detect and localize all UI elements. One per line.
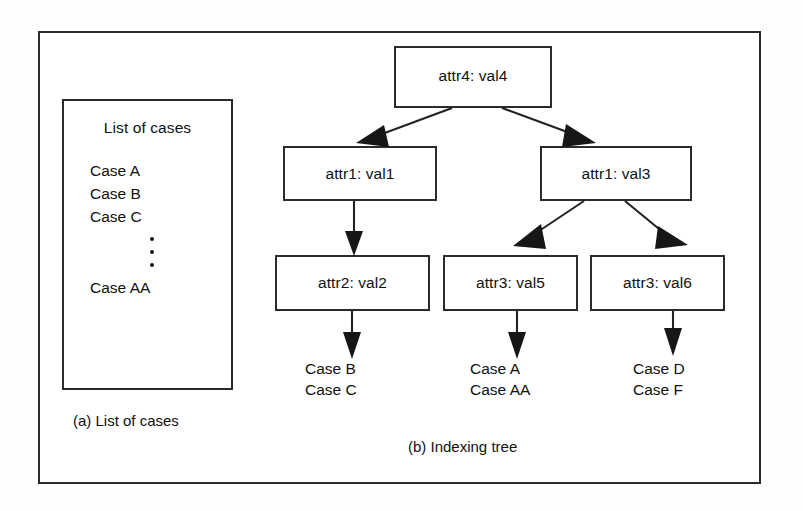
- leaf-case-line: Case F: [633, 379, 685, 400]
- ellipsis-dot: [150, 237, 154, 241]
- tree-node-right-level1: attr1: val3: [540, 146, 692, 201]
- leaf-cases-left: Case B Case C: [305, 358, 357, 400]
- list-item: Case B: [90, 182, 210, 205]
- tree-node-label: attr3: val6: [623, 274, 692, 292]
- list-of-cases-title: List of cases: [64, 119, 231, 137]
- tree-node-left-level2: attr2: val2: [275, 255, 430, 311]
- leaf-case-line: Case D: [633, 358, 685, 379]
- vertical-ellipsis-icon: [90, 237, 210, 267]
- tree-node-label: attr3: val5: [476, 274, 545, 292]
- figure-root: List of cases Case A Case B Case C Case …: [0, 0, 803, 511]
- ellipsis-dot: [150, 250, 154, 254]
- ellipsis-dot: [150, 263, 154, 267]
- list-item: Case C: [90, 205, 210, 228]
- tree-node-label: attr2: val2: [318, 274, 387, 292]
- list-item: Case A: [90, 159, 210, 182]
- caption-panel-a: (a) List of cases: [73, 412, 179, 429]
- caption-panel-b: (b) Indexing tree: [408, 438, 517, 455]
- tree-node-label: attr4: val4: [438, 67, 507, 85]
- leaf-case-line: Case B: [305, 358, 357, 379]
- leaf-case-line: Case C: [305, 379, 357, 400]
- leaf-case-line: Case A: [470, 358, 530, 379]
- tree-node-label: attr1: val3: [581, 165, 650, 183]
- tree-node-label: attr1: val1: [325, 165, 394, 183]
- tree-node-left-level1: attr1: val1: [283, 146, 437, 201]
- leaf-cases-middle: Case A Case AA: [470, 358, 530, 400]
- case-list: Case A Case B Case C Case AA: [90, 159, 210, 299]
- tree-node-middle-level2: attr3: val5: [443, 255, 578, 311]
- list-item-last: Case AA: [90, 276, 210, 299]
- list-of-cases-box: List of cases Case A Case B Case C Case …: [62, 99, 233, 390]
- tree-node-root: attr4: val4: [394, 46, 552, 108]
- leaf-cases-right: Case D Case F: [633, 358, 685, 400]
- leaf-case-line: Case AA: [470, 379, 530, 400]
- tree-node-right-level2: attr3: val6: [590, 255, 725, 311]
